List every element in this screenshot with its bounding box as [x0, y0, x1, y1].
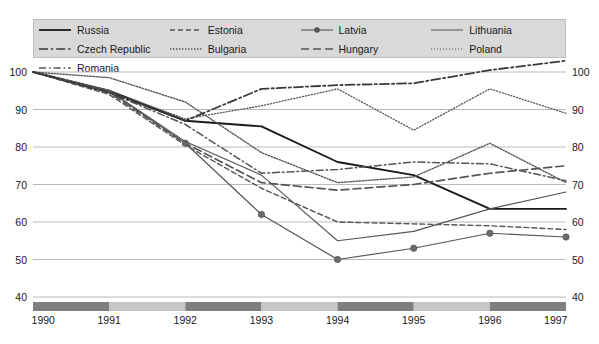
axis-band-1992	[185, 302, 261, 311]
axis-band-1994	[338, 302, 414, 311]
chart-root: RussiaEstoniaLatviaLithuaniaCzech Republ…	[0, 0, 599, 344]
axis-band-1996	[490, 302, 566, 311]
plot-svg	[0, 0, 599, 344]
y-axis-tick-left-50: 50	[5, 255, 27, 265]
series-line-romania[interactable]	[33, 72, 566, 181]
axis-band-1991	[109, 302, 185, 311]
x-axis-tick-1995: 1995	[402, 315, 425, 325]
x-axis-tick-1990: 1990	[32, 315, 55, 325]
y-axis-tick-right-80: 80	[572, 142, 594, 152]
axis-band-1995	[414, 302, 490, 311]
x-axis-tick-1992: 1992	[174, 315, 197, 325]
y-axis-tick-left-40: 40	[5, 292, 27, 302]
series-marker-latvia[interactable]	[258, 211, 264, 217]
y-axis-tick-right-60: 60	[572, 217, 594, 227]
plot-area: 1001009090808070706060505040401990199119…	[0, 0, 599, 344]
series-line-hungary[interactable]	[33, 72, 566, 190]
y-axis-tick-left-90: 90	[5, 105, 27, 115]
series-line-latvia[interactable]	[33, 72, 566, 260]
x-axis-tick-1993: 1993	[250, 315, 273, 325]
y-axis-tick-left-70: 70	[5, 180, 27, 190]
y-axis-tick-right-90: 90	[572, 105, 594, 115]
series-marker-latvia[interactable]	[334, 256, 340, 262]
axis-band-1993	[261, 302, 337, 311]
y-axis-tick-right-100: 100	[572, 67, 594, 77]
y-axis-tick-right-70: 70	[572, 180, 594, 190]
y-axis-tick-right-40: 40	[572, 292, 594, 302]
series-line-poland[interactable]	[33, 72, 566, 130]
x-axis-tick-1997: 1997	[544, 315, 567, 325]
x-axis-tick-1991: 1991	[97, 315, 120, 325]
axis-band-1990	[33, 302, 109, 311]
y-axis-tick-left-80: 80	[5, 142, 27, 152]
series-marker-latvia[interactable]	[563, 234, 569, 240]
series-marker-latvia[interactable]	[487, 230, 493, 236]
y-axis-tick-right-50: 50	[572, 255, 594, 265]
series-marker-latvia[interactable]	[411, 245, 417, 251]
x-axis-tick-1996: 1996	[478, 315, 501, 325]
y-axis-tick-left-100: 100	[5, 67, 27, 77]
x-axis-tick-1994: 1994	[326, 315, 349, 325]
y-axis-tick-left-60: 60	[5, 217, 27, 227]
series-line-bulgaria[interactable]	[33, 72, 566, 183]
